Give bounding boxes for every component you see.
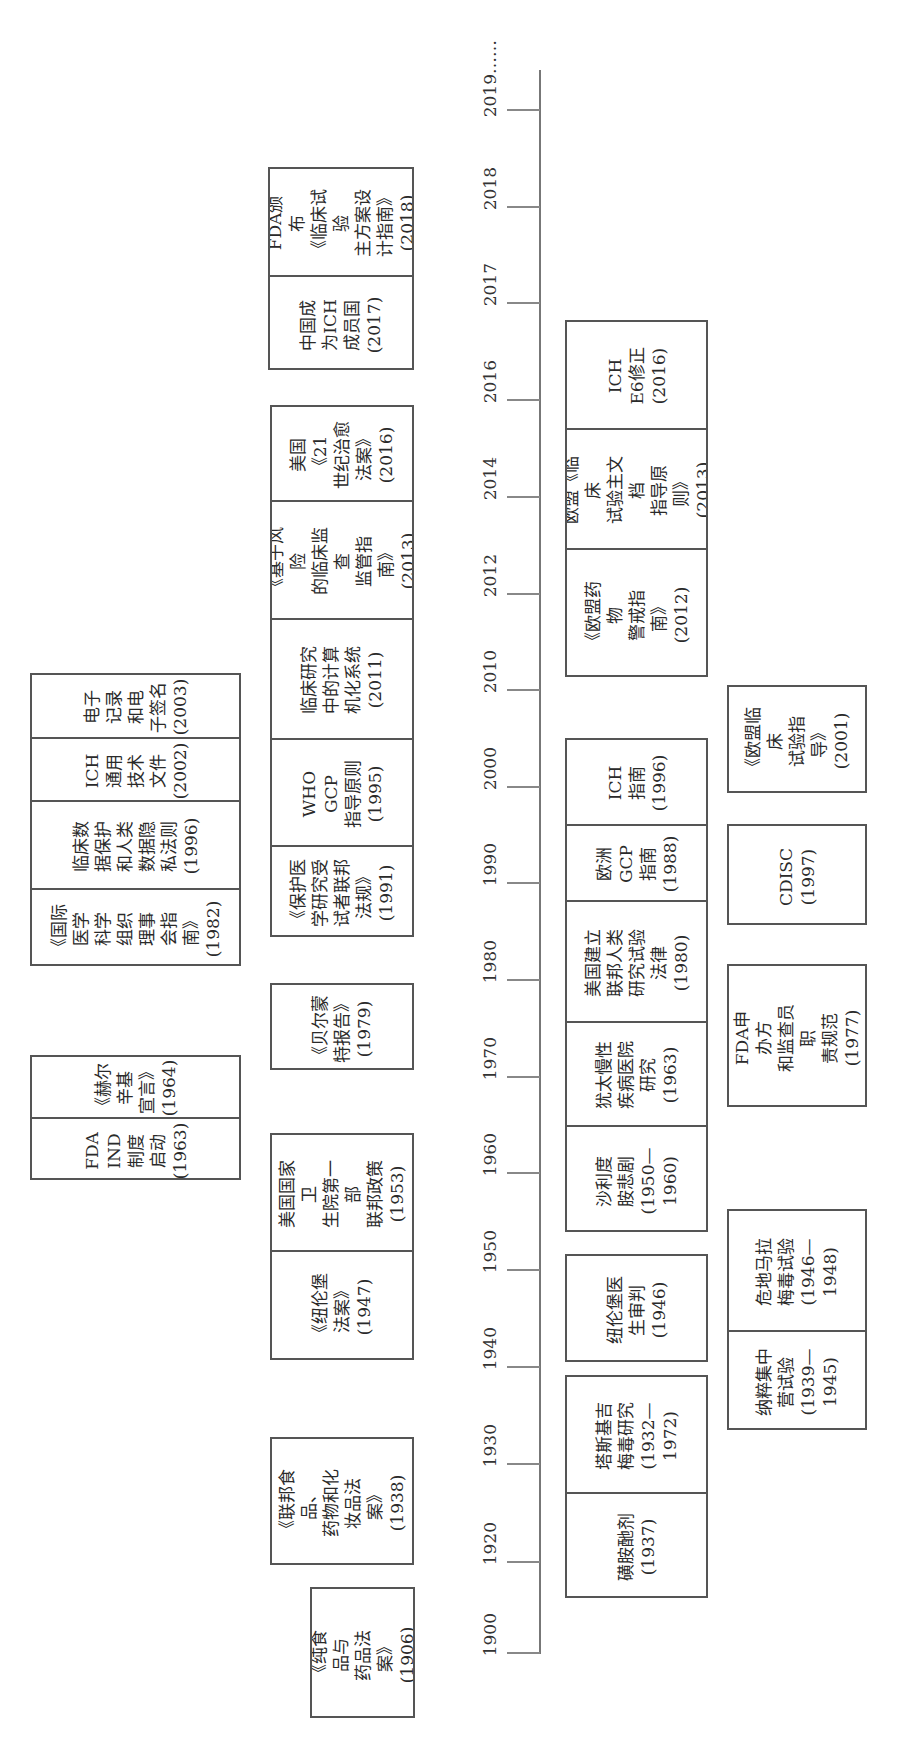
event-box-mid-left-1906: 《纯食品与 药品法案》 (1906) xyxy=(310,1587,415,1718)
event-label: 临床研究 中的计算 机化系统 (2011) xyxy=(298,646,386,714)
event-label: 中国成 为ICH 成员国 (2017) xyxy=(297,296,385,353)
event-label: 《纯食品与 药品法案》 (1906) xyxy=(312,1626,413,1683)
event-label: 《纽伦堡 法案》 (1947) xyxy=(309,1273,375,1341)
event-label: 犹太慢性 疾病医院 研究 (1963) xyxy=(593,1041,681,1109)
event-label: 美国《21 世纪治愈 法案》 (2016) xyxy=(287,420,397,490)
event-box-mid-left-1950s: 美国国家卫 生院第一部 联邦政策 (1953)《纽伦堡 法案》 (1947) xyxy=(270,1133,414,1360)
event-label: 美国国家卫 生院第一部 联邦政策 (1953) xyxy=(276,1159,408,1229)
event-label: 电子 记录 和电 子签名 (2003) xyxy=(81,679,191,736)
event-label: WHO GCP 指导原则 (1995) xyxy=(298,759,386,829)
event-label: 临床数 据保护 和人类 数据隐 私法则 (1996) xyxy=(70,818,202,875)
event-box-inner-right-1946: 纽伦堡医 生审判 (1946) xyxy=(565,1254,708,1362)
axis-year-label: 1920 xyxy=(479,1522,501,1602)
event-label: 《联邦食品、 药物和化 妆品法案》 (1938) xyxy=(276,1468,408,1538)
axis-tick xyxy=(507,1366,540,1368)
event-cell: WHO GCP 指导原则 (1995) xyxy=(272,740,412,847)
event-label: 《欧盟药物 警戒指南》 (2012) xyxy=(582,580,692,650)
axis-year-label: 2000 xyxy=(479,747,501,827)
event-cell: 《基于风险 的临床监查 监管指南》 (2013) xyxy=(272,502,412,620)
event-label: ICH 通用 技术 文件 (2002) xyxy=(81,742,191,799)
axis-tick xyxy=(507,1463,540,1465)
axis-year-label: 1990 xyxy=(479,843,501,923)
event-box-far-left-recent: 电子 记录 和电 子签名 (2003)ICH 通用 技术 文件 (2002)临床… xyxy=(30,673,241,966)
axis-tick xyxy=(507,206,540,208)
axis-year-label: 2016 xyxy=(479,360,501,440)
event-label: 《基于风险 的临床监查 监管指南》 (2013) xyxy=(272,526,412,596)
axis-tick xyxy=(507,593,540,595)
event-box-mid-left-1938: 《联邦食品、 药物和化 妆品法案》 (1938) xyxy=(270,1437,414,1565)
event-cell: ICH 通用 技术 文件 (2002) xyxy=(32,739,239,802)
event-cell: FDA IND 制度 启动 (1963) xyxy=(32,1119,239,1182)
event-label: ICH E6修正 (2016) xyxy=(604,347,670,404)
event-label: 《贝尔蒙 特报告》 (1979) xyxy=(309,995,375,1063)
event-box-inner-right-stack: ICH 指南 (1996)欧洲 GCP 指南 (1988)美国建立 联邦人类 研… xyxy=(565,738,708,1232)
event-cell: 《国际 医学 科学 组织 理事 会指 南》 (1982) xyxy=(32,890,239,968)
event-box-inner-right-2010s: ICH E6修正 (2016)欧盟《临床 试验主文档 指导原则》 (2013)《… xyxy=(565,320,708,677)
event-label: 《赫尔 辛基 宣言》 (1964) xyxy=(92,1060,180,1117)
axis-tick xyxy=(507,979,540,981)
axis-year-label: 2012 xyxy=(479,554,501,634)
axis-year-label: 1900 xyxy=(479,1613,501,1693)
event-label: 欧盟《临床 试验主文档 指导原则》 (2013) xyxy=(567,455,706,525)
event-cell: 美国《21 世纪治愈 法案》 (2016) xyxy=(272,407,412,502)
event-box-inner-right-1930s: 塔斯基吉 梅毒研究 (1932— 1972)磺胺酏剂 (1937) xyxy=(565,1375,708,1598)
event-cell: CDISC (1997) xyxy=(729,826,865,927)
event-cell: 《欧盟药物 警戒指南》 (2012) xyxy=(567,550,706,679)
axis-tick xyxy=(507,1561,540,1563)
event-cell: ICH 指南 (1996) xyxy=(567,740,706,826)
event-box-outer-right-1977: FDA申办方 和监查员职 责规范 (1977) xyxy=(727,964,867,1107)
axis-year-label: 1930 xyxy=(479,1424,501,1504)
axis-year-label: 1940 xyxy=(479,1327,501,1407)
event-label: 危地马拉 梅毒试验 (1946— 1948) xyxy=(753,1238,841,1306)
axis-tick xyxy=(507,882,540,884)
event-cell: 沙利度 胺悲剧 (1950— 1960) xyxy=(567,1127,706,1234)
event-cell: 犹太慢性 疾病医院 研究 (1963) xyxy=(567,1023,706,1127)
axis-tick xyxy=(507,302,540,304)
axis-tick xyxy=(507,1076,540,1078)
event-label: FDA IND 制度 启动 (1963) xyxy=(81,1122,191,1179)
event-cell: 《纯食品与 药品法案》 (1906) xyxy=(312,1589,413,1720)
event-label: 纳粹集中 营试验 (1939— 1945) xyxy=(753,1348,841,1416)
event-box-outer-right-2001: 《欧盟临床 试验指导》 (2001) xyxy=(727,685,867,793)
event-label: 美国建立 联邦人类 研究试验 法律(1980) xyxy=(582,928,692,998)
axis-tick xyxy=(507,399,540,401)
timeline-axis-line xyxy=(539,70,541,1654)
event-label: 塔斯基吉 梅毒研究 (1932— 1972) xyxy=(593,1402,681,1470)
event-cell: 临床数 据保护 和人类 数据隐 私法则 (1996) xyxy=(32,802,239,890)
axis-tick xyxy=(507,1269,540,1271)
event-cell: 《保护医 学研究受 试者联邦 法规》 (1991) xyxy=(272,847,412,939)
event-cell: FDA颁布 《临床试验 主方案设 计指南》 (2018) xyxy=(270,169,412,277)
axis-tick xyxy=(507,1652,540,1654)
axis-tick xyxy=(507,496,540,498)
axis-tick xyxy=(507,1172,540,1174)
event-label: FDA申办方 和监查员职 责规范 (1977) xyxy=(731,1004,863,1072)
event-cell: 欧盟《临床 试验主文档 指导原则》 (2013) xyxy=(567,430,706,550)
event-cell: 《纽伦堡 法案》 (1947) xyxy=(272,1252,412,1362)
axis-year-label: 2014 xyxy=(479,457,501,537)
event-label: 磺胺酏剂 (1937) xyxy=(615,1513,659,1581)
event-cell: 中国成 为ICH 成员国 (2017) xyxy=(270,277,412,372)
axis-year-label: 2019…… xyxy=(479,40,501,150)
event-cell: 磺胺酏剂 (1937) xyxy=(567,1494,706,1600)
event-label: 《国际 医学 科学 组织 理事 会指 南》 (1982) xyxy=(48,901,224,958)
axis-tick xyxy=(507,689,540,691)
event-cell: 《贝尔蒙 特报告》 (1979) xyxy=(272,985,412,1072)
event-box-far-left-1960s: 《赫尔 辛基 宣言》 (1964)FDA IND 制度 启动 (1963) xyxy=(30,1055,241,1180)
event-label: ICH 指南 (1996) xyxy=(604,755,670,812)
event-cell: 美国国家卫 生院第一部 联邦政策 (1953) xyxy=(272,1135,412,1252)
event-box-mid-left-1979: 《贝尔蒙 特报告》 (1979) xyxy=(270,983,414,1070)
event-label: 沙利度 胺悲剧 (1950— 1960) xyxy=(593,1147,681,1214)
event-label: 《保护医 学研究受 试者联邦 法规》 (1991) xyxy=(287,859,397,927)
event-cell: ICH E6修正 (2016) xyxy=(567,322,706,430)
axis-year-label: 2010 xyxy=(479,650,501,730)
event-cell: 纳粹集中 营试验 (1939— 1945) xyxy=(729,1332,865,1432)
event-box-outer-right-1940s: 危地马拉 梅毒试验 (1946— 1948)纳粹集中 营试验 (1939— 19… xyxy=(727,1209,867,1430)
event-cell: 《赫尔 辛基 宣言》 (1964) xyxy=(32,1057,239,1119)
event-cell: 临床研究 中的计算 机化系统 (2011) xyxy=(272,620,412,740)
event-cell: 《欧盟临床 试验指导》 (2001) xyxy=(729,687,865,795)
event-box-mid-left-2017: FDA颁布 《临床试验 主方案设 计指南》 (2018)中国成 为ICH 成员国… xyxy=(268,167,414,370)
event-label: FDA颁布 《临床试验 主方案设 计指南》 (2018) xyxy=(270,188,412,259)
event-box-mid-left-stack: 美国《21 世纪治愈 法案》 (2016)《基于风险 的临床监查 监管指南》 (… xyxy=(270,405,414,937)
axis-year-label: 2017 xyxy=(479,263,501,343)
event-label: 欧洲 GCP 指南 (1988) xyxy=(593,836,681,893)
